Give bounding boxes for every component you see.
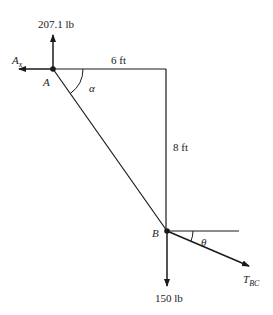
horizontal-dimension-label: 6 ft: [111, 54, 126, 66]
tension-label: TBC: [243, 273, 260, 288]
angle-theta-arc: [191, 231, 193, 241]
angle-theta-label: θ: [201, 236, 207, 248]
point-b: [164, 228, 170, 234]
load-label: 150 lb: [155, 292, 183, 304]
vertical-dimension-label: 8 ft: [173, 141, 188, 153]
point-a: [50, 66, 56, 72]
member-ab: [53, 69, 167, 231]
free-body-diagram: 207.1 lb Ax A 6 ft α 8 ft B θ TBC 150 lb: [0, 0, 273, 315]
force-ay-label: 207.1 lb: [38, 18, 75, 30]
force-ax-label: Ax: [11, 54, 23, 69]
tension-arrow: [167, 231, 249, 266]
point-a-label: A: [42, 76, 50, 88]
angle-alpha-arc: [70, 69, 83, 94]
angle-alpha-label: α: [89, 82, 95, 94]
point-b-label: B: [152, 227, 159, 239]
